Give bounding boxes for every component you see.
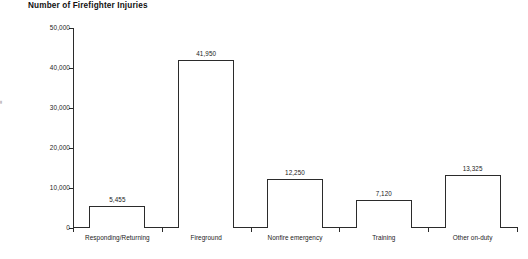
y-tick-label: 30,000	[50, 104, 70, 111]
x-tick-mark	[428, 227, 429, 232]
x-tick-mark	[73, 227, 74, 232]
bar[interactable]	[356, 200, 412, 228]
y-tick-label: 50,000	[50, 24, 70, 31]
bar[interactable]	[445, 175, 501, 228]
x-tick-mark	[251, 227, 252, 232]
chart-figure: Number of Firefighter Injuries = 010,000…	[0, 0, 528, 259]
y-tick-label: 10,000	[50, 184, 70, 191]
bar[interactable]	[89, 206, 145, 228]
bar-value-label: 12,250	[255, 169, 335, 176]
y-tick-label: 40,000	[50, 64, 70, 71]
x-tick-mark	[339, 227, 340, 232]
plot-area: 010,00020,00030,00040,00050,000 5,455Res…	[73, 28, 517, 228]
x-tick-mark	[517, 227, 518, 232]
y-tick-label: 20,000	[50, 144, 70, 151]
bar-value-label: 7,120	[344, 190, 424, 197]
x-tick-mark	[162, 227, 163, 232]
bar-value-label: 41,950	[166, 50, 246, 57]
bar-value-label: 13,325	[433, 165, 513, 172]
bar[interactable]	[178, 60, 234, 228]
x-category-label: Other on-duty	[418, 234, 528, 241]
y-axis-caption: =	[0, 101, 4, 104]
bar[interactable]	[267, 179, 323, 228]
y-tick-label: 0	[66, 224, 70, 231]
chart-title: Number of Firefighter Injuries	[28, 1, 148, 10]
bar-value-label: 5,455	[77, 196, 157, 203]
y-axis-line	[73, 28, 74, 228]
